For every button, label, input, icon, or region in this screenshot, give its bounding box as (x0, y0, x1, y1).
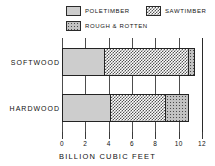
legend-item-sawtimber: SAWTIMBER (146, 6, 207, 16)
x-axis-tick-label: 2 (83, 140, 87, 147)
x-axis-tick-label: 4 (107, 140, 111, 147)
bar-segment-rough-and-rotten (165, 94, 189, 122)
category-label-hardwood: HARDWOOD (2, 105, 60, 112)
x-axis-tick (62, 132, 63, 139)
x-axis-tick-label: 0 (60, 140, 64, 147)
chart-legend: POLETIMBER SAWTIMBER ROUGH & ROTTEN (66, 6, 212, 38)
plot-area (62, 38, 202, 132)
bar-hardwood (62, 94, 189, 122)
x-axis-tick (179, 132, 180, 139)
x-axis-tick (132, 132, 133, 139)
stipple-pattern-swatch-icon (66, 6, 81, 16)
legend-item-label: ROUGH & ROTTEN (85, 22, 148, 30)
x-axis-tick-label: 10 (175, 140, 183, 147)
x-axis-title: BILLION CUBIC FEET (0, 152, 215, 161)
bar-segment-rough-and-rotten (188, 48, 195, 76)
stacked-bar-chart: POLETIMBER SAWTIMBER ROUGH & ROTTEN SOFT… (0, 0, 215, 166)
bar-segment-sawtimber (104, 48, 189, 76)
checkerboard-pattern-swatch-icon (146, 6, 161, 16)
legend-item-poletimber: POLETIMBER (66, 6, 130, 16)
category-label-softwood: SOFTWOOD (2, 59, 60, 66)
x-axis-tick (202, 132, 203, 139)
legend-item-rough-and-rotten: ROUGH & ROTTEN (66, 21, 148, 31)
legend-item-label: SAWTIMBER (165, 7, 207, 15)
legend-item-label: POLETIMBER (85, 7, 130, 15)
x-axis-tick (85, 132, 86, 139)
coarse-stipple-pattern-swatch-icon (66, 21, 81, 31)
x-axis-tick (155, 132, 156, 139)
bar-segment-poletimber (62, 94, 111, 122)
x-axis-tick-label: 8 (153, 140, 157, 147)
bar-segment-poletimber (62, 48, 105, 76)
x-axis-tick (109, 132, 110, 139)
bar-segment-sawtimber (110, 94, 166, 122)
x-axis-tick-label: 12 (198, 140, 206, 147)
bar-softwood (62, 48, 195, 76)
x-axis-tick-label: 6 (130, 140, 134, 147)
gridline (202, 38, 203, 132)
